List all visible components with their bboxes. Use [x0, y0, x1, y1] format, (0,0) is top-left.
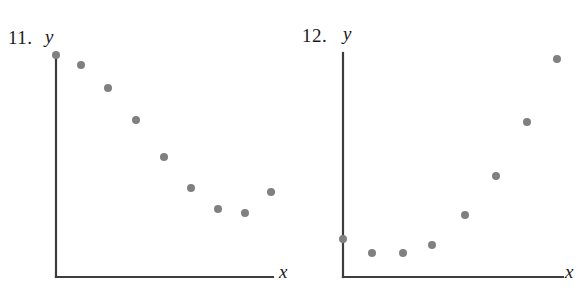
data-point [132, 116, 140, 124]
data-point [339, 235, 347, 243]
data-point [368, 249, 376, 257]
data-point [492, 172, 500, 180]
data-point [52, 51, 60, 59]
problem-panel-12: 12. y x [294, 0, 588, 288]
data-point [428, 241, 436, 249]
data-point [553, 55, 561, 63]
data-point [77, 61, 85, 69]
scatter-plot-12 [294, 0, 588, 288]
data-point [267, 188, 275, 196]
data-point [241, 209, 249, 217]
data-point [187, 184, 195, 192]
data-point [160, 153, 168, 161]
data-point [523, 118, 531, 126]
data-point [461, 211, 469, 219]
data-point [214, 205, 222, 213]
scatter-plot-11 [0, 0, 294, 288]
data-point [104, 84, 112, 92]
problem-panel-11: 11. y x [0, 0, 294, 288]
data-point [399, 249, 407, 257]
